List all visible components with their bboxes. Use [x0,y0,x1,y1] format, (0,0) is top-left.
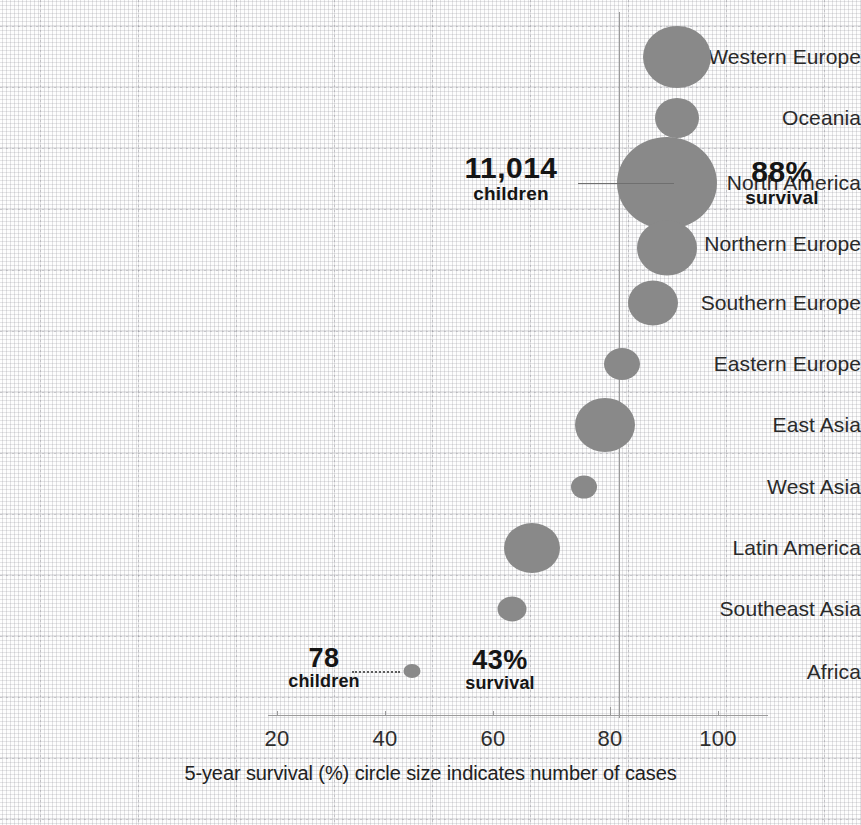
chart-page: Western Europe Oceania North America Nor… [0,0,861,825]
x-axis-label-60: 60 [480,726,505,752]
bubble-east-asia[interactable] [575,398,635,452]
x-axis-tick-100 [718,711,719,716]
category-label-africa: Africa [609,660,861,684]
leader-line-north-america [578,183,674,184]
plot-area: Western Europe Oceania North America Nor… [0,0,861,825]
x-axis-caption: 5-year survival (%) circle size indicate… [0,762,861,785]
callout-north-america-survival: 88% survival [745,156,818,207]
callout-africa-cases: 78 children [288,644,360,691]
bubble-southern-europe[interactable] [628,281,678,326]
callout-north-america-cases: 11,014 children [464,152,557,203]
category-label-eastern-europe: Eastern Europe [609,352,861,376]
x-axis-tick-40 [385,711,386,716]
bubble-oceania[interactable] [655,98,699,138]
x-axis-tick-20 [277,711,278,716]
x-axis-label-80: 80 [597,726,622,752]
category-label-latin-america: Latin America [609,536,861,560]
bubble-west-asia[interactable] [571,476,597,499]
x-axis-label-100: 100 [699,726,737,752]
category-label-oceania: Oceania [609,106,861,130]
callout-na-cases-value: 11,014 [464,152,557,184]
callout-africa-survival-value: 43% [465,646,535,674]
callout-africa-survival-unit: survival [465,675,535,694]
callout-africa-cases-unit: children [288,673,360,692]
bubble-western-europe[interactable] [643,26,711,88]
bubble-eastern-europe[interactable] [604,348,640,380]
bubble-northern-europe[interactable] [637,221,697,276]
x-axis-tick-80 [610,707,611,716]
category-label-southeast-asia: Southeast Asia [609,597,861,621]
callout-africa-survival: 43% survival [465,646,535,693]
category-label-west-asia: West Asia [609,475,861,499]
bubble-southeast-asia[interactable] [498,597,527,622]
x-axis-tick-60 [493,711,494,716]
category-label-east-asia: East Asia [609,413,861,437]
callout-na-cases-unit: children [464,184,557,204]
x-axis-label-20: 20 [264,726,289,752]
callout-africa-cases-value: 78 [288,644,360,672]
bubble-africa[interactable] [404,664,421,678]
x-axis-label-40: 40 [372,726,397,752]
callout-na-survival-value: 88% [745,156,818,188]
callout-na-survival-unit: survival [745,188,818,208]
x-axis-line [268,715,768,716]
bubble-latin-america[interactable] [504,523,560,573]
